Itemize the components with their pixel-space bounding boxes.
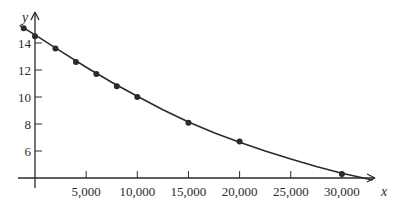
axes (18, 12, 375, 188)
y-tick-label: 8 (25, 117, 32, 132)
y-axis-label: y (20, 10, 29, 25)
x-axis-label: x (380, 184, 388, 199)
data-point (114, 83, 120, 89)
x-tick-label: 30,000 (324, 184, 360, 199)
data-point (21, 25, 27, 31)
x-tick-label: 15,000 (171, 184, 207, 199)
chart: 5,00010,00015,00020,00025,00030,00068101… (0, 0, 395, 212)
data-point (339, 171, 345, 177)
y-tick-label: 10 (18, 90, 31, 105)
y-tick-label: 12 (18, 63, 31, 78)
data-point (32, 33, 38, 39)
x-tick-label: 10,000 (119, 184, 155, 199)
x-tick-label: 20,000 (222, 184, 258, 199)
data-point (134, 94, 140, 100)
fitted-curve (20, 25, 373, 180)
data-point (73, 59, 79, 65)
data-point (185, 120, 191, 126)
data-point (237, 139, 243, 145)
data-point (52, 45, 58, 51)
data-points (21, 25, 345, 177)
x-tick-label: 5,000 (72, 184, 101, 199)
data-point (93, 71, 99, 77)
y-tick-label: 6 (25, 144, 32, 159)
y-tick-label: 14 (18, 36, 32, 51)
curve-path (20, 25, 373, 180)
x-tick-label: 25,000 (273, 184, 309, 199)
